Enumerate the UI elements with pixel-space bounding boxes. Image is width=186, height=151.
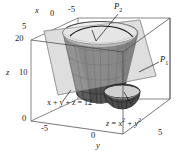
plane-surface-front [44, 20, 156, 95]
x-tick-0: 0 [50, 9, 54, 18]
paraboloid-equation-plus: + y [125, 119, 138, 128]
lower-lobe [104, 84, 140, 109]
z-tick-0: 0 [22, 114, 26, 123]
plane-equation-label: x + y + z = 12 [47, 99, 92, 107]
point-label-p1: P1 [160, 55, 168, 66]
point-p1-sub: 1 [165, 60, 168, 66]
y-tick-neg5: -5 [41, 124, 48, 133]
y-tick-5: 5 [158, 128, 162, 137]
axis-label-x: x [35, 6, 39, 15]
paraboloid-exponent-2: 2 [138, 117, 141, 123]
axis-label-y: y [96, 141, 100, 150]
x-tick-neg5: -5 [68, 5, 75, 14]
figure-3d-paraboloid-plane: x 0 -5 5 z 20 10 0 -5 0 5 y x + y + z = … [0, 0, 186, 151]
z-tick-20: 20 [15, 34, 24, 43]
axis-label-z: z [6, 68, 9, 77]
point-p2-sub: 2 [119, 7, 122, 13]
point-label-p2: P2 [114, 2, 122, 13]
paraboloid-equation-main: z = x [106, 119, 122, 128]
z-tick-10: 10 [19, 68, 28, 77]
x-tick-5: 5 [22, 22, 26, 31]
y-tick-0: 0 [91, 131, 95, 140]
paraboloid-equation-label: z = x2 + y2 [106, 117, 141, 128]
